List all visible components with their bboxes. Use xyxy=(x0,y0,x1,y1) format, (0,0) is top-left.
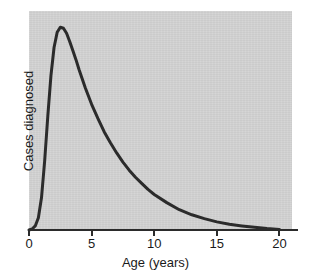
x-axis-title: Age (years) xyxy=(0,255,311,271)
series-line-cases-diagnosed xyxy=(29,27,279,230)
y-axis-title: Cases diagnosed xyxy=(21,31,37,211)
x-tick-label-15: 15 xyxy=(197,236,237,251)
x-tick-label-0: 0 xyxy=(9,236,49,251)
x-tick-label-5: 5 xyxy=(72,236,112,251)
x-tick-label-20: 20 xyxy=(259,236,299,251)
x-axis-line xyxy=(29,229,298,231)
chart-figure: 05101520 Age (years) Cases diagnosed xyxy=(0,0,311,279)
x-tick-label-10: 10 xyxy=(134,236,174,251)
cases-diagnosed-curve xyxy=(29,11,292,230)
